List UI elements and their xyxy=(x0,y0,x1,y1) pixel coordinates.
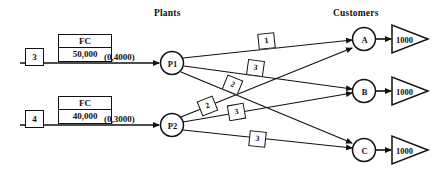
plant-label-p1: P1 xyxy=(162,59,183,69)
source-number-2: 4 xyxy=(25,110,44,128)
arc-cost-p2-c: 3 xyxy=(248,130,267,148)
header-plants: Plants xyxy=(154,8,181,18)
arc-p1-b xyxy=(184,66,352,89)
arc-cost-p1-b: 3 xyxy=(246,59,265,77)
arc-cost-p2-b: 3 xyxy=(227,103,247,122)
demand-value-b: 1000 xyxy=(396,87,413,97)
capacity-label-p2: (0,3000) xyxy=(104,114,135,124)
customer-label-c: C xyxy=(354,146,375,156)
customer-label-a: A xyxy=(354,35,375,45)
header-customers: Customers xyxy=(333,8,379,18)
source-number-1: 3 xyxy=(25,48,44,66)
demand-value-c: 1000 xyxy=(396,146,413,156)
fixed-cost-label-2: FC xyxy=(59,97,111,110)
plant-label-p2: P2 xyxy=(162,121,183,131)
customer-label-b: B xyxy=(354,87,375,97)
network-flow-diagram: Plants Customers 3 FC 50,000 (0,4000) 4 … xyxy=(0,0,440,178)
fixed-cost-label-1: FC xyxy=(59,35,111,48)
demand-value-a: 1000 xyxy=(396,35,413,45)
capacity-label-p1: (0,4000) xyxy=(104,52,135,62)
arc-cost-p1-a: 1 xyxy=(257,32,276,50)
